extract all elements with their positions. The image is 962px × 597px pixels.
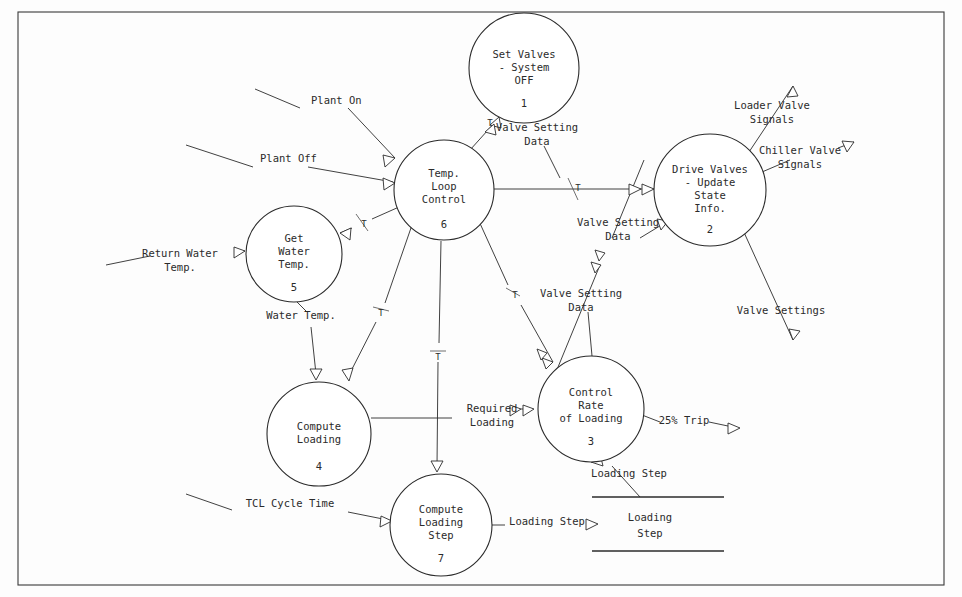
process-number: 4 (316, 460, 322, 472)
flow-p6-to-p7-b (437, 362, 438, 466)
arrowhead-chiller-valve-signals (842, 141, 854, 152)
arrowhead-plant-on (383, 155, 395, 167)
flow-label-required-loading-line-1: Loading (470, 416, 514, 428)
process-bubble-4[interactable]: Compute Loading 4 (267, 382, 371, 486)
process-label-line-1: Loading (419, 516, 463, 528)
flow-label-return-water-temp-line-1: Temp. (164, 261, 196, 273)
flow-label-tcl-cycle-time: TCL Cycle Time (246, 497, 335, 509)
arrowhead-required-loading-2 (523, 405, 534, 416)
arrowhead-25-trip (728, 423, 740, 434)
process-bubble-6[interactable]: Temp. Loop Control 6 (394, 140, 494, 240)
flow-25-trip-b (709, 422, 728, 426)
process-label-line-1: Loop (431, 180, 456, 192)
dfd-canvas: T T T T T T Set Valves - System OFF 1 (0, 0, 962, 597)
flow-label-loader-valve-signals-line-1: Signals (750, 113, 794, 125)
process-label-line-3: Info. (694, 202, 726, 214)
flow-valve-settings (742, 228, 793, 340)
flow-p6-to-p4 (385, 225, 412, 303)
process-label-line-2: State (694, 189, 726, 201)
flow-label-chiller-valve-signals-line-1: Signals (778, 158, 822, 170)
flow-plant-off-b (308, 167, 393, 182)
process-label-line-1: Loading (297, 433, 341, 445)
process-label-line-0: Set Valves (492, 48, 555, 60)
flow-plant-on-b (348, 108, 395, 158)
arrowhead-p7-in-from-p6 (431, 461, 443, 472)
flow-label-return-water-temp-line-0: Return Water (142, 247, 218, 259)
data-store-label-line-1: Step (637, 527, 662, 539)
t-marker-label: T (378, 308, 384, 318)
process-bubble-2[interactable]: Drive Valves - Update State Info. 2 (654, 134, 766, 246)
t-marker-p3: T (506, 288, 520, 300)
process-label-line-2: OFF (515, 74, 534, 86)
arrowhead-p4-in-from-p6 (342, 368, 353, 381)
process-label-line-2: Temp. (278, 258, 310, 270)
flow-label-valve-setting-data-3-line-1: Data (568, 301, 593, 313)
flow-label-plant-off: Plant Off (260, 152, 317, 164)
process-label-line-2: Control (422, 193, 466, 205)
flow-label-loader-valve-signals-line-0: Loader Valve (734, 99, 810, 111)
process-bubble-7[interactable]: Compute Loading Step 7 (390, 474, 492, 576)
t-marker-p1: T (487, 118, 493, 128)
flow-label-chiller-valve-signals-line-0: Chiller Valve (759, 144, 841, 156)
process-label-line-0: Compute (297, 420, 341, 432)
t-marker-label: T (512, 290, 518, 300)
flow-25-trip (642, 415, 660, 422)
flow-vsd1-leader (544, 146, 560, 178)
process-number: 7 (438, 552, 444, 564)
process-number: 3 (588, 435, 594, 447)
flow-plant-on (255, 89, 300, 108)
process-label-line-0: Control (569, 386, 613, 398)
process-label-line-0: Compute (419, 503, 463, 515)
flow-vsd3-leader (588, 312, 592, 356)
flow-p6-to-p3-b (521, 305, 553, 362)
flow-label-loading-step-in: Loading Step (591, 467, 667, 479)
process-label-line-2: Step (428, 529, 453, 541)
process-bubble-1[interactable]: Set Valves - System OFF 1 (469, 13, 579, 123)
arrowhead-p3-to-p2-2 (591, 262, 601, 273)
flow-plant-off (186, 145, 253, 167)
flow-p6-to-p3 (478, 219, 508, 285)
arrowhead-loading-step-out (586, 519, 598, 530)
process-label-line-1: Rate (578, 399, 603, 411)
data-flow-diagram: T T T T T T Set Valves - System OFF 1 (0, 0, 962, 597)
process-number: 1 (521, 97, 527, 109)
flow-label-valve-setting-data-1-line-1: Data (524, 135, 549, 147)
arrowhead-p2-in-horizontal-2 (629, 184, 641, 195)
process-label-line-2: of Loading (559, 412, 622, 424)
flow-label-plant-on: Plant On (311, 94, 362, 106)
data-store-loading-step[interactable]: Loading Step (592, 497, 724, 551)
arrowhead-valve-settings (789, 329, 800, 340)
process-label-line-1: - Update (685, 176, 736, 188)
arrowhead-p2-in-horizontal (642, 184, 654, 195)
arrowhead-plant-off (383, 178, 395, 190)
flow-water-temp-b (311, 327, 316, 374)
process-number: 6 (441, 218, 447, 230)
t-marker-p7: T (430, 351, 446, 362)
flow-label-valve-setting-data-3-line-0: Valve Setting (540, 287, 622, 299)
flow-tcl-cycle-time (186, 494, 232, 510)
flow-label-valve-settings: Valve Settings (737, 304, 826, 316)
t-marker-p5: T (356, 214, 368, 231)
flow-p6-to-p7 (439, 241, 441, 343)
process-bubble-3[interactable]: Control Rate of Loading 3 (538, 356, 644, 462)
flow-label-water-temp: Water Temp. (266, 309, 336, 321)
arrowhead-p3-to-p2-1 (595, 250, 605, 261)
flow-p6-to-p4-b (349, 322, 376, 375)
t-marker-label: T (487, 118, 493, 128)
flow-p5-to-p6 (372, 207, 399, 219)
flow-label-loading-step-out: Loading Step (509, 515, 585, 527)
arrowhead-loader-valve-signals (787, 86, 798, 97)
arrowhead-p4-in-water-temp (310, 369, 322, 380)
process-number: 5 (291, 281, 297, 293)
t-marker-label: T (361, 219, 367, 229)
process-bubble-5[interactable]: Get Water Temp. 5 (246, 206, 342, 302)
process-label-line-1: - System (499, 61, 550, 73)
t-marker-label: T (435, 352, 441, 362)
flow-label-valve-setting-data-2-line-0: Valve Setting (577, 216, 659, 228)
flow-label-required-loading-line-0: Required (467, 402, 518, 414)
t-marker-label: T (575, 183, 581, 193)
t-marker-p4: T (373, 307, 389, 318)
data-store-label-line-0: Loading (628, 511, 672, 523)
arrowhead-p5-in (234, 247, 245, 258)
arrowhead-p3-in-diagonal-2 (537, 349, 547, 360)
